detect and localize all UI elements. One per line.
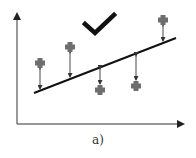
data-point xyxy=(35,58,45,68)
regression-line xyxy=(34,38,176,93)
data-point xyxy=(131,81,141,91)
check-icon xyxy=(85,15,114,33)
data-point xyxy=(158,15,168,25)
data-point xyxy=(65,42,75,52)
data-point xyxy=(95,85,105,95)
figure-caption: a) xyxy=(0,133,196,147)
residual-arrows xyxy=(40,26,163,89)
